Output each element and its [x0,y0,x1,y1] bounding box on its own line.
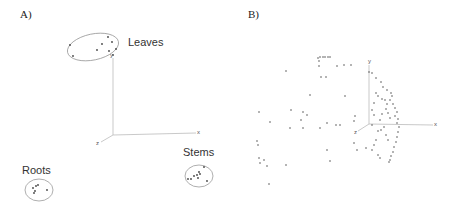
data-point [371,124,373,126]
panel-a-x-label: x [197,129,200,135]
data-point [306,114,308,116]
data-point [391,95,393,97]
data-point [373,114,375,116]
data-point [350,64,352,66]
data-point [377,154,379,156]
data-point [371,72,373,74]
data-point [335,124,337,126]
data-point [397,131,399,133]
data-point [198,171,200,173]
data-point [371,149,373,151]
data-point [395,141,397,143]
data-point [320,76,322,78]
data-point [384,99,386,101]
plot-canvas [0,0,454,215]
data-point [285,70,287,72]
data-point [302,111,304,113]
data-point [385,134,387,136]
data-point [386,103,388,105]
data-point [309,94,311,96]
data-point [375,92,377,94]
data-point [46,189,48,191]
panel-a-axes [101,58,196,142]
data-point [389,117,391,119]
data-point [35,185,37,187]
data-point [263,159,265,161]
data-point [197,177,199,179]
data-point [326,122,328,124]
figure: A) B) Leaves Stems Roots y x z y x z [0,0,454,215]
leaves-label: Leaves [128,36,163,48]
data-point [379,157,381,159]
data-point [266,165,268,167]
data-point [258,111,260,113]
data-point [322,56,324,58]
data-point [206,180,208,182]
data-point [393,146,395,148]
data-point [377,95,379,97]
data-point [354,115,356,117]
data-point [394,107,396,109]
panel-label-b: B) [248,8,259,20]
data-point [398,126,400,128]
panel-b-z-label: z [354,129,357,135]
data-point [199,173,201,175]
panel-b-y-label: y [368,58,371,64]
data-point [32,187,34,189]
data-point [196,174,198,176]
data-point [327,56,329,58]
panel-a-z-label: z [96,140,99,146]
data-point [388,161,390,163]
data-point [259,162,261,164]
data-point [33,192,35,194]
data-point [353,120,355,122]
panel-label-a: A) [20,8,32,20]
data-point [319,56,321,58]
data-point [101,43,103,45]
data-point [368,71,370,73]
data-point [317,57,319,59]
data-point [396,136,398,138]
data-point [380,129,382,131]
data-point [389,159,391,161]
data-point [318,65,320,67]
data-point [387,139,389,141]
data-point [300,119,302,121]
data-point [115,48,117,50]
panel-a-y-label: y [110,52,113,58]
roots-label: Roots [22,164,51,176]
panel-b-x-axis [369,124,433,125]
data-point [377,130,379,132]
data-point [96,49,98,51]
stems-ellipse [185,165,213,187]
data-point [329,56,331,58]
data-point [390,92,392,94]
stems-label: Stems [183,146,214,158]
data-point [34,190,36,192]
data-point [380,81,382,83]
roots-ellipse [25,179,53,201]
panel-a-points [32,36,208,194]
data-point [343,64,345,66]
data-point [203,166,205,168]
data-point [371,109,373,111]
data-point [392,103,394,105]
panel-b-points [256,56,400,185]
data-point [256,140,258,142]
panel-a-z-axis [101,135,113,142]
data-point [326,149,328,151]
data-point [268,183,270,185]
data-point [382,86,384,88]
data-point [289,127,291,129]
data-point [353,142,355,144]
data-point [318,60,320,62]
data-point [285,164,287,166]
data-point [365,147,367,149]
data-point [385,108,387,110]
data-point [381,113,383,115]
data-point [290,109,292,111]
data-point [111,41,113,43]
data-point [187,178,189,180]
data-point [394,115,396,117]
data-point [389,99,391,101]
